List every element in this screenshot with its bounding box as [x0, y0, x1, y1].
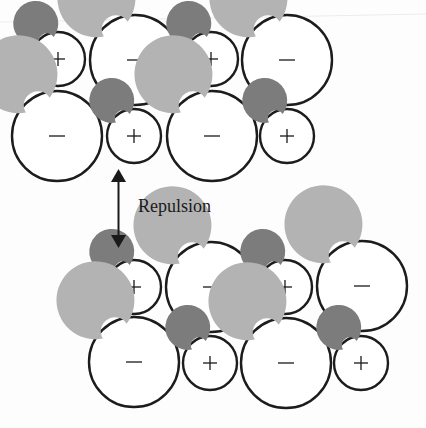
- lower-crystal-layer: [56, 185, 407, 408]
- diagram-canvas: Repulsion: [0, 0, 426, 428]
- ionic-repulsion-diagram: Repulsion: [0, 0, 426, 428]
- repulsion-double-arrow-icon: [111, 169, 126, 248]
- anion-ion: [0, 35, 102, 181]
- upper-crystal-layer: [0, 0, 332, 181]
- repulsion-label: Repulsion: [138, 196, 211, 216]
- arrow-head-up-icon: [111, 169, 126, 182]
